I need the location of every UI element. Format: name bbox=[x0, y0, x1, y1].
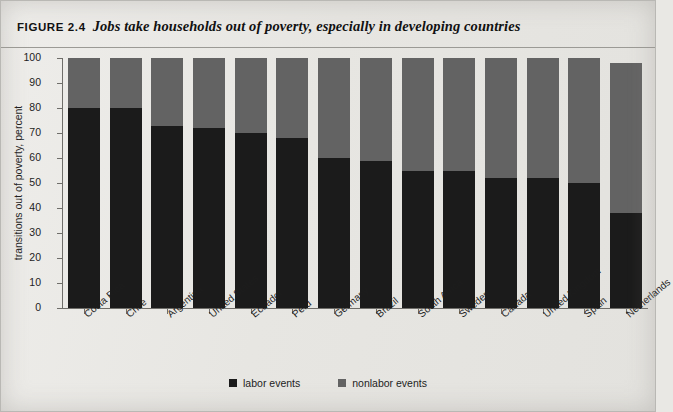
bar-group[interactable] bbox=[193, 58, 225, 308]
bar-segment-labor-events[interactable] bbox=[402, 171, 434, 309]
bar-segment-labor-events[interactable] bbox=[193, 128, 225, 308]
y-axis-tick-label: 50 bbox=[1, 176, 41, 188]
y-axis-tick bbox=[57, 208, 63, 209]
bar-segment-labor-events[interactable] bbox=[110, 108, 142, 308]
y-axis-tick-label: 90 bbox=[1, 76, 41, 88]
figure-title-bar: FIGURE 2.4Jobs take households out of po… bbox=[1, 1, 655, 47]
y-axis-tick-label: 20 bbox=[1, 251, 41, 263]
bar-segment-nonlabor-events[interactable] bbox=[485, 58, 517, 178]
bar-segment-nonlabor-events[interactable] bbox=[193, 58, 225, 128]
y-axis-tick bbox=[57, 58, 63, 59]
figure-number: FIGURE 2.4 bbox=[17, 21, 86, 33]
bar-segment-nonlabor-events[interactable] bbox=[68, 58, 100, 108]
legend-label: nonlabor events bbox=[352, 377, 427, 389]
bar-segment-nonlabor-events[interactable] bbox=[527, 58, 559, 178]
bar-segment-nonlabor-events[interactable] bbox=[235, 58, 267, 133]
bar-segment-labor-events[interactable] bbox=[68, 108, 100, 308]
bar-group[interactable] bbox=[527, 58, 559, 308]
y-axis-tick bbox=[57, 83, 63, 84]
bar-group[interactable] bbox=[610, 58, 642, 308]
y-axis-tick bbox=[57, 158, 63, 159]
bar-segment-nonlabor-events[interactable] bbox=[276, 58, 308, 138]
bar-segment-labor-events[interactable] bbox=[318, 158, 350, 308]
y-axis-tick-label: 60 bbox=[1, 151, 41, 163]
bar-group[interactable] bbox=[485, 58, 517, 308]
bar-segment-labor-events[interactable] bbox=[527, 178, 559, 308]
bar-segment-nonlabor-events[interactable] bbox=[443, 58, 475, 171]
bar-group[interactable] bbox=[68, 58, 100, 308]
legend-label: labor events bbox=[243, 377, 300, 389]
y-axis-tick-label: 0 bbox=[1, 301, 41, 313]
y-axis-tick-label: 30 bbox=[1, 226, 41, 238]
bar-segment-labor-events[interactable] bbox=[485, 178, 517, 308]
y-axis-tick-label: 100 bbox=[1, 51, 41, 63]
y-axis-tick-label: 70 bbox=[1, 126, 41, 138]
y-axis-tick bbox=[57, 183, 63, 184]
y-axis-tick bbox=[57, 133, 63, 134]
bar-segment-nonlabor-events[interactable] bbox=[568, 58, 600, 183]
bar-group[interactable] bbox=[318, 58, 350, 308]
y-axis-tick bbox=[57, 108, 63, 109]
bar-segment-nonlabor-events[interactable] bbox=[610, 63, 642, 213]
bar-segment-nonlabor-events[interactable] bbox=[318, 58, 350, 158]
legend-item[interactable]: nonlabor events bbox=[338, 377, 427, 389]
bar-group[interactable] bbox=[151, 58, 183, 308]
bars-layer bbox=[63, 58, 647, 308]
y-axis-tick bbox=[57, 308, 63, 309]
legend-swatch-icon bbox=[338, 379, 346, 387]
y-axis-tick-label: 10 bbox=[1, 276, 41, 288]
y-axis-tick-label: 80 bbox=[1, 101, 41, 113]
bar-group[interactable] bbox=[360, 58, 392, 308]
x-axis-labels: Costa RicaChileArgentinaUnited StatesEcu… bbox=[63, 311, 653, 371]
legend-swatch-icon bbox=[229, 379, 237, 387]
figure-caption: Jobs take households out of poverty, esp… bbox=[93, 18, 521, 34]
chart-legend: labor eventsnonlabor events bbox=[1, 377, 655, 389]
y-axis-tick bbox=[57, 233, 63, 234]
bar-segment-nonlabor-events[interactable] bbox=[151, 58, 183, 126]
legend-item[interactable]: labor events bbox=[229, 377, 300, 389]
figure-title: FIGURE 2.4Jobs take households out of po… bbox=[17, 17, 521, 35]
bar-segment-nonlabor-events[interactable] bbox=[402, 58, 434, 171]
plot-area: 0102030405060708090100 bbox=[63, 58, 647, 308]
bar-group[interactable] bbox=[110, 58, 142, 308]
bar-segment-labor-events[interactable] bbox=[276, 138, 308, 308]
bar-group[interactable] bbox=[235, 58, 267, 308]
bar-segment-nonlabor-events[interactable] bbox=[360, 58, 392, 161]
title-divider bbox=[1, 47, 655, 48]
bar-group[interactable] bbox=[443, 58, 475, 308]
bar-segment-labor-events[interactable] bbox=[151, 126, 183, 309]
bar-group[interactable] bbox=[402, 58, 434, 308]
y-axis-tick bbox=[57, 283, 63, 284]
bar-group[interactable] bbox=[276, 58, 308, 308]
bar-segment-nonlabor-events[interactable] bbox=[110, 58, 142, 108]
y-axis-tick-label: 40 bbox=[1, 201, 41, 213]
y-axis-tick bbox=[57, 258, 63, 259]
bar-segment-labor-events[interactable] bbox=[610, 213, 642, 308]
